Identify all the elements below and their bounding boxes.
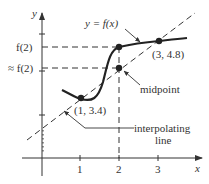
point-1-label: (1, 3.4)	[74, 104, 106, 117]
interpolating-line	[27, 13, 195, 140]
f2-label: f(2)	[16, 41, 33, 54]
midpoint-label: midpoint	[140, 83, 180, 95]
x-tick-label-3: 3	[155, 163, 161, 175]
x-tick-label-2: 2	[116, 163, 122, 175]
x-tick-label-1: 1	[77, 163, 83, 175]
x-axis-label: x	[194, 162, 200, 174]
point-3-4.8	[156, 38, 162, 44]
approx-f2-label: ≈ f(2)	[8, 62, 34, 75]
interpolating-line-label-2: line	[155, 134, 172, 146]
curve-label: y = f(x)	[84, 17, 118, 30]
y-axis-label: y	[31, 7, 37, 19]
interpolating-line-label-1: interpolating	[134, 122, 191, 134]
midpoint-leader	[124, 71, 140, 85]
interpolation-diagram: y x 1 2 3 f(2) ≈ f(2) y = f(x) (1, 3.4) …	[0, 0, 209, 184]
point-1-3.4	[78, 95, 84, 101]
curve-label-leader	[125, 29, 140, 42]
midpoint	[116, 65, 122, 71]
point-3-label: (3, 4.8)	[152, 48, 184, 61]
point-f2	[116, 44, 122, 50]
